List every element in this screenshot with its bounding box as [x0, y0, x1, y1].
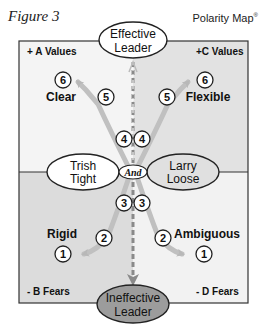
term-clear: Clear — [46, 90, 76, 104]
ineffective-leader-line2: Leader — [114, 305, 151, 319]
step-1-right: 1 — [201, 248, 207, 260]
term-flexible: Flexible — [186, 90, 231, 104]
quadrant-c-label: +C Values — [196, 46, 244, 57]
step-5-right: 5 — [164, 91, 170, 103]
step-3-right: 3 — [139, 197, 145, 209]
step-6-right: 6 — [202, 74, 208, 86]
step-2-right: 2 — [160, 232, 166, 244]
quadrant-b-label: - B Fears — [27, 286, 70, 297]
step-1-left: 1 — [60, 248, 66, 260]
term-ambiguous: Ambiguous — [174, 227, 240, 241]
trish-label: Trish — [70, 159, 96, 173]
quadrant-d-label: - D Fears — [196, 286, 239, 297]
effective-leader-line1: Effective — [110, 27, 156, 41]
quadrant-top-right — [133, 41, 248, 172]
polarity-map-diagram: 6 6 5 5 4 4 3 3 2 2 1 1 Effective Leader… — [0, 0, 266, 334]
effective-leader-line2: Leader — [114, 41, 151, 55]
step-3-left: 3 — [121, 197, 127, 209]
and-label: And — [123, 167, 142, 178]
step-4-right: 4 — [139, 133, 146, 145]
loose-label: Loose — [167, 172, 200, 186]
quadrant-a-label: + A Values — [27, 46, 77, 57]
quadrant-top-left — [19, 41, 133, 172]
larry-label: Larry — [169, 159, 196, 173]
step-2-left: 2 — [101, 232, 107, 244]
tight-label: Tight — [70, 172, 97, 186]
step-6-left: 6 — [60, 74, 66, 86]
term-rigid: Rigid — [47, 227, 77, 241]
ineffective-leader-line1: Ineffective — [106, 291, 161, 305]
step-4-left: 4 — [121, 133, 128, 145]
step-5-left: 5 — [103, 91, 109, 103]
